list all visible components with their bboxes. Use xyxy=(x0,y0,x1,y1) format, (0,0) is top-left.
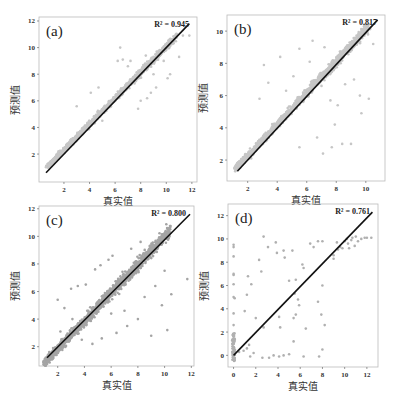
y-tick-label: 6 xyxy=(32,97,36,105)
fit-line xyxy=(46,24,189,173)
panel-c: 2468101224681012(c)R² = 0.800真实值预测值 xyxy=(9,205,195,391)
x-tick-label: 12 xyxy=(188,370,196,378)
x-tick-label: 4 xyxy=(88,186,92,194)
y-tick-label: 2 xyxy=(221,329,225,337)
y-axis-label: 预测值 xyxy=(9,85,21,115)
panel-d: 024681012024681012(d)R² = 0.761真实值预测值 xyxy=(198,204,378,392)
r-squared-label: R² = 0.945 xyxy=(154,20,189,29)
panel-a: 2468101224681012(a)R² = 0.945真实值预测值 xyxy=(9,17,197,207)
y-tick-label: 6 xyxy=(32,288,36,296)
x-tick-label: 6 xyxy=(305,185,309,193)
figure-2x2-scatter: 2468101224681012(a)R² = 0.945真实值预测值24681… xyxy=(0,0,400,402)
y-tick-label: 6 xyxy=(221,282,225,290)
r-squared-label: R² = 0.800 xyxy=(151,209,186,218)
x-tick-label: 4 xyxy=(275,185,279,193)
x-tick-label: 10 xyxy=(163,186,171,194)
x-tick-label: 8 xyxy=(136,370,140,378)
x-tick-label: 6 xyxy=(109,370,113,378)
r-squared-label: R² = 0.817 xyxy=(342,18,377,27)
panel-label: (a) xyxy=(46,23,63,40)
y-tick-label: 2 xyxy=(32,151,36,159)
r-squared-label: R² = 0.761 xyxy=(335,207,370,216)
fit-line xyxy=(237,20,377,171)
y-axis-label: 预测值 xyxy=(9,271,21,301)
y-tick-label: 4 xyxy=(220,124,224,132)
fit-line xyxy=(47,214,190,357)
panel-label: (c) xyxy=(46,212,63,229)
y-tick-label: 12 xyxy=(28,205,36,213)
y-tick-label: 8 xyxy=(32,260,36,268)
x-tick-label: 0 xyxy=(232,371,236,379)
y-tick-label: 8 xyxy=(32,71,36,79)
x-tick-label: 2 xyxy=(56,370,60,378)
x-tick-label: 12 xyxy=(188,186,196,194)
x-tick-label: 8 xyxy=(335,185,339,193)
y-tick-label: 10 xyxy=(28,44,36,52)
scatter-points xyxy=(42,223,189,367)
x-tick-label: 4 xyxy=(83,370,87,378)
fit-line xyxy=(234,212,373,355)
y-tick-label: 4 xyxy=(32,316,36,324)
y-tick-label: 8 xyxy=(220,60,224,68)
y-tick-label: 8 xyxy=(221,259,225,267)
x-tick-label: 4 xyxy=(276,371,280,379)
y-tick-label: 2 xyxy=(220,157,224,165)
plot-frame xyxy=(228,204,378,367)
x-tick-label: 12 xyxy=(363,371,371,379)
y-tick-label: 12 xyxy=(28,17,36,25)
y-tick-label: 10 xyxy=(217,235,225,243)
y-axis-label: 预测值 xyxy=(197,83,209,113)
x-axis-label: 真实值 xyxy=(288,380,318,392)
y-tick-label: 10 xyxy=(28,233,36,241)
y-tick-label: 4 xyxy=(32,124,36,132)
panel-label: (b) xyxy=(234,21,252,38)
y-tick-label: 4 xyxy=(221,305,225,313)
x-axis-label: 真实值 xyxy=(102,379,132,391)
x-tick-label: 10 xyxy=(341,371,349,379)
x-tick-label: 8 xyxy=(139,186,143,194)
y-axis-label: 预测值 xyxy=(198,271,210,301)
x-tick-label: 2 xyxy=(246,185,250,193)
x-tick-label: 10 xyxy=(161,370,169,378)
x-axis-label: 真实值 xyxy=(103,195,133,207)
x-tick-label: 10 xyxy=(362,185,370,193)
x-tick-label: 2 xyxy=(62,186,66,194)
x-tick-label: 6 xyxy=(298,371,302,379)
y-tick-label: 12 xyxy=(217,212,225,220)
panel-b: 246810246810(b)R² = 0.817真实值预测值 xyxy=(197,15,385,206)
scatter-points xyxy=(231,235,373,362)
x-tick-label: 6 xyxy=(113,186,117,194)
y-tick-label: 0 xyxy=(221,352,225,360)
x-tick-label: 8 xyxy=(321,371,325,379)
y-tick-label: 6 xyxy=(220,92,224,100)
y-tick-label: 2 xyxy=(32,343,36,351)
scatter-points xyxy=(45,33,191,169)
y-tick-label: 10 xyxy=(216,28,224,36)
panel-label: (d) xyxy=(235,210,253,227)
x-tick-label: 2 xyxy=(254,371,258,379)
